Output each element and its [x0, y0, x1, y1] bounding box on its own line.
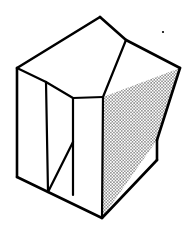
figure-root — [0, 0, 193, 237]
isometric-block-figure — [0, 0, 193, 237]
left-slab-side-face — [46, 82, 73, 195]
marks-group — [162, 31, 164, 33]
left-slab-front-face — [17, 68, 48, 192]
edge-stipple-left-vertical — [102, 97, 103, 218]
edge-valley-to-mid — [73, 97, 103, 98]
ink-speck — [162, 31, 164, 33]
